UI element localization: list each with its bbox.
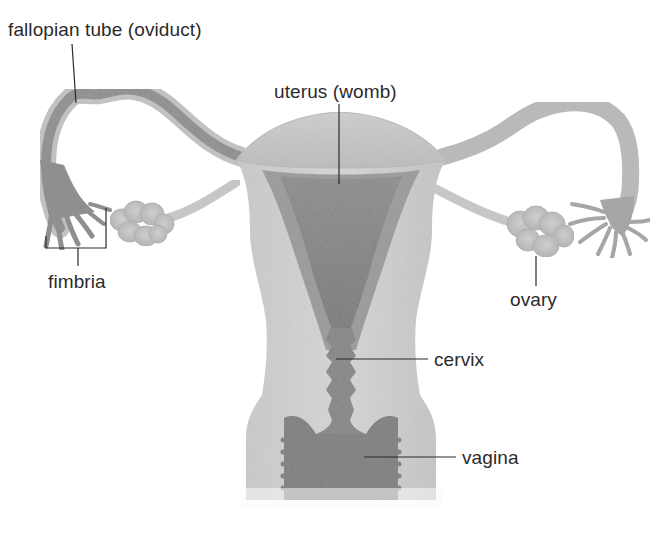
uterus-body xyxy=(236,112,446,508)
label-cervix: cervix xyxy=(434,350,484,369)
right-ovary xyxy=(422,182,574,257)
label-vagina: vagina xyxy=(462,448,519,467)
left-ovary xyxy=(110,180,240,246)
label-ovary: ovary xyxy=(510,290,557,309)
label-fallopian-tube: fallopian tube (oviduct) xyxy=(8,20,202,39)
reproductive-system-diagram: fallopian tube (oviduct) uterus (womb) f… xyxy=(0,0,660,534)
label-fimbria: fimbria xyxy=(48,272,106,291)
label-uterus: uterus (womb) xyxy=(274,82,397,101)
